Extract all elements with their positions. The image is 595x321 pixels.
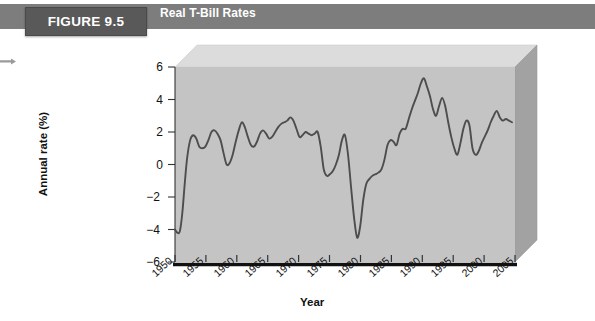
y-tick-label: −2 [138, 190, 160, 204]
y-tick-label: 0 [141, 158, 163, 172]
y-tick-label: 6 [141, 60, 163, 74]
y-axis-title: Annual rate (%) [37, 94, 49, 214]
y-axis-ticks [168, 67, 175, 262]
y-tick-label: 2 [141, 125, 163, 139]
y-tick-label: 4 [141, 93, 163, 107]
plot-box-right-face [515, 45, 537, 262]
x-axis-title: Year [300, 296, 324, 308]
plot-box-top-face [175, 45, 537, 67]
y-tick-label: −4 [138, 223, 160, 237]
real-tbill-rates-chart [0, 0, 595, 321]
chart-container: 6 4 2 0 −2 −4 −6 1950 1955 1960 1965 197… [0, 0, 595, 321]
